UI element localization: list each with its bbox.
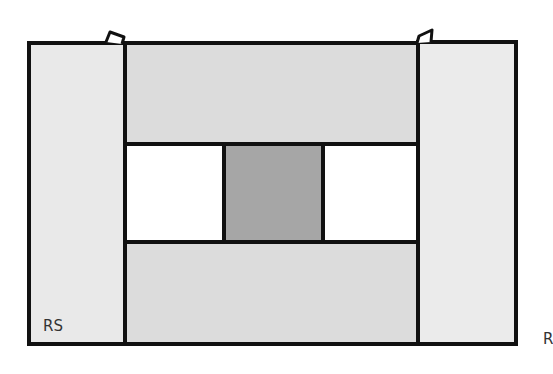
right-seam-flap-icon (417, 30, 432, 43)
cut-off-label: R (543, 330, 553, 348)
left-seam-flap-icon (106, 32, 124, 44)
right-side-label: RS (43, 317, 63, 335)
